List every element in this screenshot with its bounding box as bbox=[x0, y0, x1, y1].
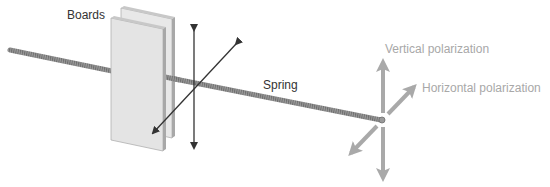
boards-label: Boards bbox=[67, 8, 105, 22]
spring-label: Spring bbox=[263, 78, 298, 92]
vertical-polarization-label: Vertical polarization bbox=[385, 42, 489, 56]
spring bbox=[10, 50, 112, 71]
front-board bbox=[111, 16, 166, 151]
horizontal-polarization-label: Horizontal polarization bbox=[422, 81, 541, 95]
